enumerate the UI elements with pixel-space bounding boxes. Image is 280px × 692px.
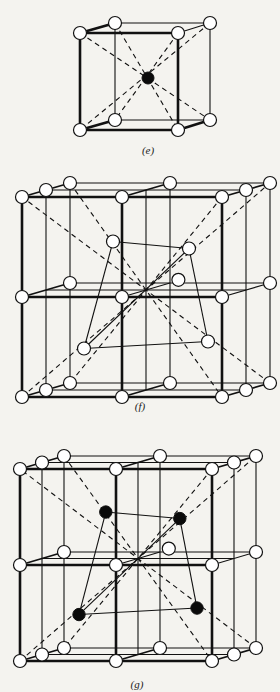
e-center-atom <box>142 72 154 84</box>
f-face-center-atom <box>172 273 185 286</box>
f-lattice-atom <box>264 177 277 190</box>
g-lattice-atom <box>250 642 263 655</box>
panel-f-fcc-cell <box>16 177 277 404</box>
panel-g-fcc-tetrahedral <box>14 450 263 668</box>
caption-g: (g) <box>131 678 144 691</box>
f-lattice-atom <box>264 377 277 390</box>
g-face-center-atom <box>162 542 175 555</box>
f-lattice-atom <box>240 384 253 397</box>
f-lattice-atom <box>16 191 29 204</box>
f-tetrahedron-atom <box>107 235 120 248</box>
g-lattice-atom <box>58 450 71 463</box>
e-atom <box>172 124 185 137</box>
f-tetrahedron-atom <box>202 335 215 348</box>
g-lattice-atom <box>228 456 241 469</box>
f-tetrahedron-edge <box>84 242 113 349</box>
e-atom <box>74 27 87 40</box>
g-lattice-atom <box>228 648 241 661</box>
f-lattice-atom <box>64 377 77 390</box>
g-tetrahedron-edge <box>180 519 197 609</box>
f-lattice-atom <box>240 184 253 197</box>
g-lattice-atom <box>14 559 27 572</box>
g-tetrahedral-atom <box>73 608 85 620</box>
f-face-center-atom <box>116 291 129 304</box>
f-lattice-atom <box>16 291 29 304</box>
f-tetrahedron-edge <box>84 249 189 349</box>
g-tetrahedron-edge <box>79 519 180 615</box>
f-lattice-atom <box>216 391 229 404</box>
f-tetrahedron-edge <box>189 249 208 342</box>
f-tetrahedron-atom <box>78 342 91 355</box>
crystal-structure-figure: (e) (f) (g) <box>0 0 280 692</box>
g-lattice-atom <box>250 546 263 559</box>
g-lattice-atom <box>14 463 27 476</box>
g-tetrahedral-atom <box>100 506 112 518</box>
f-lattice-atom <box>16 391 29 404</box>
g-lattice-atom <box>36 648 49 661</box>
caption-f: (f) <box>135 400 146 413</box>
g-lattice-atom <box>110 655 123 668</box>
f-lattice-atom <box>40 384 53 397</box>
f-lattice-atom <box>64 177 77 190</box>
f-lattice-atom <box>164 377 177 390</box>
g-tetrahedron-edge <box>79 512 106 615</box>
f-lattice-atom <box>64 277 77 290</box>
f-lattice-atom <box>216 291 229 304</box>
f-lattice-atom <box>116 191 129 204</box>
e-atom <box>74 124 87 137</box>
g-lattice-atom <box>58 642 71 655</box>
e-back-face <box>115 23 210 120</box>
panel-e-bcc-cell: (e) <box>74 17 217 158</box>
e-atom <box>204 17 217 30</box>
g-lattice-atom <box>14 655 27 668</box>
g-face-center-atom <box>110 559 123 572</box>
f-lattice-atom <box>116 391 129 404</box>
g-lattice-atom <box>206 655 219 668</box>
f-tetrahedron-edge <box>113 242 189 249</box>
g-tetrahedral-atom <box>174 512 186 524</box>
g-lattice-atom <box>154 642 167 655</box>
f-lattice-atom <box>264 277 277 290</box>
g-lattice-atom <box>250 450 263 463</box>
f-tetrahedron-atom <box>183 242 196 255</box>
e-atom <box>109 17 122 30</box>
g-lattice-atom <box>206 463 219 476</box>
f-lattice-atom <box>40 184 53 197</box>
g-lattice-atom <box>110 463 123 476</box>
g-tetrahedral-atom <box>191 602 203 614</box>
g-lattice-atom <box>36 456 49 469</box>
e-atom <box>204 114 217 127</box>
e-atom <box>109 114 122 127</box>
g-lattice-atom <box>58 546 71 559</box>
g-lattice-atom <box>206 559 219 572</box>
e-atom <box>172 27 185 40</box>
caption-e: (e) <box>142 144 155 157</box>
g-lattice-atom <box>154 450 167 463</box>
f-lattice-atom <box>164 177 177 190</box>
f-lattice-atom <box>216 191 229 204</box>
